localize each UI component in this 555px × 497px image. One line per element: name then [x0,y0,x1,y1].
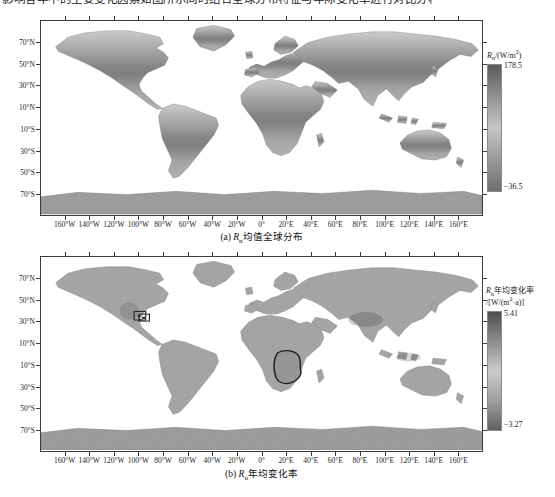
lon-tick-mark [188,16,189,20]
lon-tick-label: 120°W [103,456,124,465]
landmass-borneo [397,116,407,124]
lat-tick-mark [483,194,487,195]
lon-tick-label: 100°E [375,220,394,229]
lat-tick-mark [36,151,40,152]
landmass-australia [400,130,451,160]
colorbar-a [487,64,502,192]
lon-tick-mark [409,252,410,256]
lat-tick-mark [36,365,40,366]
unit-close: ) [519,51,522,60]
landmass-antarctica [41,190,482,214]
landmass-british-isles [246,51,253,59]
lon-tick-label: 100°W [128,456,149,465]
lon-tick-label: 20°E [279,220,294,229]
africa-study-outline [274,351,301,384]
lon-tick-mark [409,16,410,20]
landmass-africa [241,79,324,156]
lat-tick-mark [36,387,40,388]
us-box-dark-cell [138,315,141,317]
colorbar-b [487,311,502,431]
map-frame-b [40,256,483,452]
lon-tick-mark [163,252,164,256]
landmass-madagascar [317,369,324,383]
lon-tick-mark [163,16,164,20]
caption-a-prefix: (a) [220,232,233,242]
lon-tick-label: 160°E [449,456,468,465]
lon-tick-mark [385,252,386,256]
caption-b-text: 年均变化率 [248,469,298,479]
lon-tick-mark [65,252,66,256]
lon-tick-mark [335,16,336,20]
colorbar-a-title: Rn/(W/m2) [487,49,521,61]
lat-tick-label: 10°N [19,103,35,112]
lon-tick-mark [262,252,263,256]
lon-tick-mark [65,16,66,20]
colorbar-b-max: 5.41 [504,309,518,318]
lon-tick-label: 100°E [375,456,394,465]
us-box-dark-cell [140,319,142,321]
lon-tick-label: 80°W [154,220,172,229]
landmass-new-guinea [432,122,447,128]
lon-tick-label: 80°E [352,220,367,229]
lon-tick-label: 40°E [303,456,318,465]
landmass-north-america [56,31,169,110]
lat-tick-label: 10°N [19,339,35,348]
unit-text: /[W/(m [486,298,510,307]
lon-tick-label: 40°W [203,456,221,465]
world-map-b [41,257,482,451]
lon-tick-label: 0° [258,456,265,465]
lat-tick-mark [36,343,40,344]
lon-tick-mark [286,16,287,20]
us-box-dark-cell [142,317,145,319]
lat-tick-label: 10°S [20,360,35,369]
caption-b: (b) Rn年均变化率 [40,466,483,482]
lat-tick-label: 50°S [20,168,35,177]
tibet-patch [348,312,382,327]
lat-tick-mark [36,42,40,43]
lat-tick-mark [36,129,40,130]
indonesia-patch [396,353,421,362]
lon-tick-label: 60°W [179,220,197,229]
map-frame-a [40,20,483,216]
landmass-greenland [193,261,235,287]
lat-tick-mark [36,408,40,409]
caption-b-prefix: (b) [225,469,238,479]
landmass-madagascar [317,133,324,147]
lon-tick-mark [335,252,336,256]
lon-tick-label: 140°E [424,456,443,465]
lat-tick-label: 70°N [19,273,35,282]
lat-tick-label: 30°N [19,317,35,326]
lat-tick-mark [36,172,40,173]
title-text: 年均变化率 [494,286,534,295]
lon-tick-mark [138,16,139,20]
lat-tick-mark [483,42,487,43]
landmass-new-guinea [432,358,447,364]
lon-tick-label: 160°W [54,456,75,465]
lat-tick-label: 10°S [20,124,35,133]
lon-tick-mark [89,252,90,256]
landmass-sulawesi [411,118,418,124]
lat-tick-mark [36,430,40,431]
lat-tick-label: 30°S [20,146,35,155]
lon-tick-mark [114,252,115,256]
landmass-greenland [193,25,235,51]
lat-tick-label: 30°S [20,382,35,391]
lon-tick-label: 100°W [128,220,149,229]
lon-tick-mark [138,252,139,256]
landmass-new-zealand [456,157,463,168]
lon-tick-mark [188,252,189,256]
west-us-patch [119,302,139,319]
lon-tick-mark [458,252,459,256]
landmass-sumatra [379,350,392,359]
lon-tick-mark [311,252,312,256]
lon-tick-label: 120°W [103,220,124,229]
lon-tick-label: 160°E [449,220,468,229]
landmass-sumatra [379,114,392,123]
lon-tick-label: 60°E [328,456,343,465]
continents-layer-a [41,25,482,214]
lon-tick-label: 40°W [203,220,221,229]
lon-tick-label: 20°W [228,220,246,229]
lon-tick-mark [286,252,287,256]
unit-text: /(W/m [495,51,516,60]
lon-tick-label: 120°E [400,456,419,465]
